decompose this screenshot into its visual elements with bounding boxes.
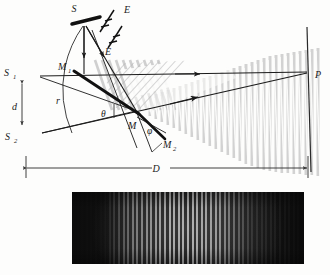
radius-line-s2 — [42, 111, 136, 133]
label-e-field-1: E — [123, 4, 130, 15]
label-separation-d: d — [12, 101, 18, 112]
label-virtual-source-s2-sub: 2 — [14, 137, 18, 144]
interference-region — [120, 48, 320, 176]
label-theta: θ — [101, 109, 106, 119]
source-bar — [72, 17, 100, 24]
label-radius-r: r — [56, 95, 60, 106]
m2-leader — [152, 143, 162, 152]
wavefront-arc-lower — [63, 67, 72, 133]
label-mirror-m2-sub: 2 — [173, 145, 177, 152]
label-phi: φ — [147, 126, 152, 136]
wavefront-arc — [65, 26, 83, 67]
label-distance-d: D — [151, 163, 160, 174]
label-mirror-m1-sub: 1 — [68, 67, 71, 74]
e-field-symbol-2 — [108, 26, 122, 48]
fringe-photograph — [72, 192, 304, 264]
label-screen-point-p: P — [314, 69, 321, 80]
fresnel-double-mirror-figure: S E E M 1 M M 2 S 1 S 2 d r θ φ P D — [0, 0, 330, 275]
label-virtual-source-s1-sub: 1 — [13, 73, 16, 80]
label-mirror-m2: M — [162, 139, 172, 150]
label-source-s: S — [72, 3, 77, 14]
label-virtual-source-s2: S — [5, 131, 10, 142]
e-field-symbol-1 — [100, 10, 114, 32]
fringe-vertical-shading — [72, 192, 304, 264]
label-e-field-2: E — [104, 46, 111, 57]
label-vertex-m: M — [127, 120, 137, 131]
label-virtual-source-s1: S — [4, 67, 9, 78]
label-mirror-m1: M — [57, 61, 67, 72]
